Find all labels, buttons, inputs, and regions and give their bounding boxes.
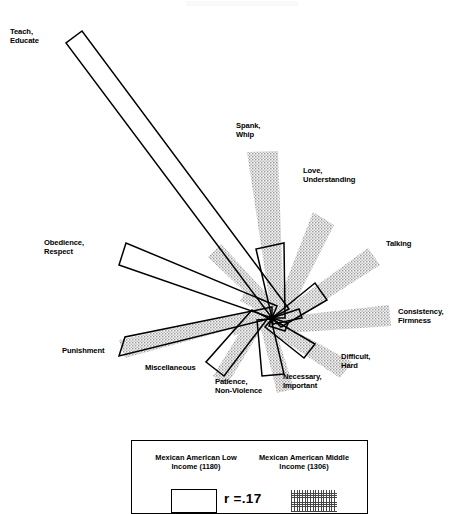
label-difficult: Difficult, Hard [341, 352, 370, 371]
label-consistency: Consistency, Firmness [398, 307, 444, 326]
rose-petal-chart [0, 0, 452, 430]
legend-low-income-title: Mexican American Low Income (1180) [144, 453, 248, 471]
label-miscellaneous: Miscellaneous [145, 363, 196, 372]
legend-swatch-low-income [171, 489, 217, 513]
label-love: Love, Understanding [303, 166, 355, 185]
legend-middle-income-title: Mexican American Middle Income (1306) [252, 453, 356, 471]
label-patience: Patience, Non-Violence [215, 377, 262, 396]
label-teach: Teach, Educate [10, 27, 39, 46]
center-hub [269, 315, 275, 321]
label-obedience: Obedience, Respect [44, 238, 84, 257]
legend-swatch-middle-income [291, 490, 337, 512]
figure-stage: Teach, Educate Spank, Whip Love, Underst… [0, 0, 452, 514]
label-talking: Talking [386, 239, 411, 248]
label-punishment: Punishment [62, 346, 104, 355]
label-necessary: Necessary, Important [283, 372, 322, 391]
legend-r-value: r =.17 [224, 491, 290, 506]
legend-box: Mexican American Low Income (1180) Mexic… [131, 440, 368, 514]
label-spank: Spank, Whip [236, 121, 260, 140]
